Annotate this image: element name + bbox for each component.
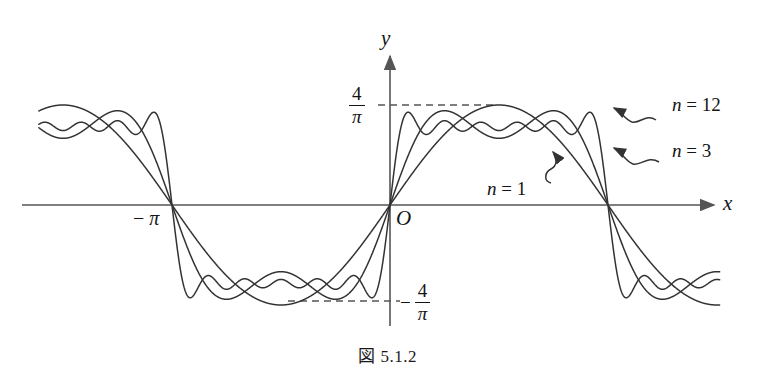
series-variable: n [672,94,682,115]
series-value: 1 [517,178,527,199]
x-axis-label: x [723,193,732,214]
x-tick-minus-pi: − π [133,208,159,228]
minus-sign: − [133,207,144,229]
series-equals: = [686,140,697,161]
fraction-numerator: 4 [415,281,431,302]
figure-container: y x O − π 4 π − 4 π n = 12 n = 3 n = 1 [0,0,775,380]
y-axis-label: y [381,28,390,49]
fourier-series-plot [0,0,775,380]
series-value: 3 [702,140,712,161]
fraction-denominator: π [349,105,365,127]
fraction-numerator: 4 [349,84,365,105]
series-equals: = [686,94,697,115]
leader-n1 [546,152,556,183]
series-label-n-12: n = 12 [672,95,721,114]
series-variable: n [672,140,682,161]
fraction-denominator: π [415,302,431,324]
minus-sign: − [400,293,411,312]
series-label-n-1: n = 1 [487,179,526,198]
pi-symbol: π [149,207,159,229]
series-value: 12 [702,94,721,115]
leader-n12 [614,108,656,122]
y-tick-positive: 4 π [349,84,365,127]
series-variable: n [487,178,497,199]
figure-caption: 図 5.1.2 [0,342,775,367]
origin-label: O [396,208,411,229]
leader-n3 [614,148,659,164]
y-tick-negative: − 4 π [400,281,430,324]
series-label-n-3: n = 3 [672,141,711,160]
series-equals: = [501,178,512,199]
